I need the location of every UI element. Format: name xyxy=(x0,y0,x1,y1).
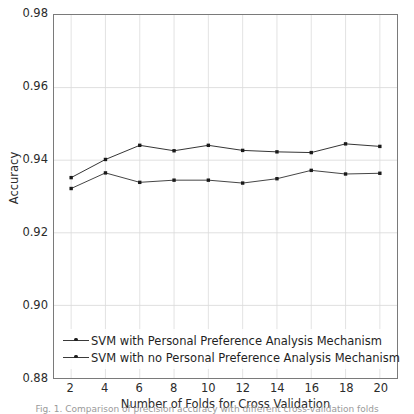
x-tick-label: 4 xyxy=(90,383,120,395)
x-tick-label: 8 xyxy=(159,383,189,395)
legend-item[interactable]: SVM with Personal Preference Analysis Me… xyxy=(61,332,378,349)
x-tick-label: 20 xyxy=(366,383,396,395)
legend-label: SVM with no Personal Preference Analysis… xyxy=(91,351,400,365)
legend-label: SVM with Personal Preference Analysis Me… xyxy=(91,334,382,348)
x-tick-label: 6 xyxy=(124,383,154,395)
y-tick-label: 0.98 xyxy=(4,8,48,20)
x-tick-label: 16 xyxy=(297,383,327,395)
y-tick-label: 0.92 xyxy=(4,227,48,239)
y-tick-label: 0.90 xyxy=(4,300,48,312)
y-tick-label: 0.96 xyxy=(4,81,48,93)
x-tick-label: 10 xyxy=(193,383,223,395)
figure-caption: Fig. 1. Comparison of precision accuracy… xyxy=(0,404,414,414)
x-tick-label: 18 xyxy=(331,383,361,395)
legend-item[interactable]: SVM with no Personal Preference Analysis… xyxy=(61,349,378,366)
legend: SVM with Personal Preference Analysis Me… xyxy=(58,329,382,369)
x-tick-label: 2 xyxy=(55,383,85,395)
data-series-layer xyxy=(54,15,397,378)
plot-area xyxy=(53,14,398,379)
y-tick-label: 0.88 xyxy=(4,373,48,385)
y-axis-label: Accuracy xyxy=(8,133,20,223)
legend-line-marker-icon xyxy=(61,334,91,348)
x-tick-label: 14 xyxy=(262,383,292,395)
x-tick-label: 12 xyxy=(228,383,258,395)
legend-line-marker-icon xyxy=(61,351,91,365)
